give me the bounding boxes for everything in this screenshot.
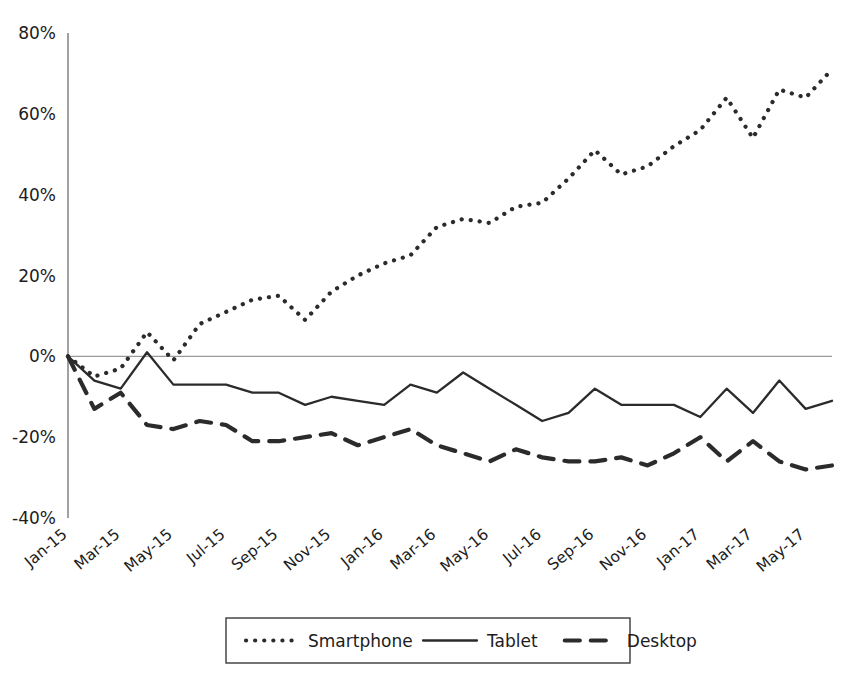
y-tick-label: 80%: [18, 23, 56, 43]
series-line-smartphone: [68, 69, 832, 376]
x-tick-label: May-17: [753, 525, 808, 575]
line-chart: 80%60%40%20%0%-20%-40% Jan-15Mar-15May-1…: [0, 0, 845, 689]
x-tick-label: Nov-15: [280, 525, 334, 574]
series-group: [68, 69, 832, 469]
x-axis-tick-labels: Jan-15Mar-15May-15Jul-15Sep-15Nov-15Jan-…: [21, 525, 809, 575]
y-tick-label: 60%: [18, 104, 56, 124]
x-tick-label: Sep-16: [544, 525, 597, 574]
series-line-tablet: [68, 352, 832, 421]
x-tick-label: May-15: [121, 525, 176, 575]
legend-label-desktop: Desktop: [627, 631, 697, 651]
x-tick-label: Jan-17: [653, 525, 703, 571]
x-tick-label: Jul-15: [183, 525, 229, 568]
chart-container: 80%60%40%20%0%-20%-40% Jan-15Mar-15May-1…: [0, 0, 845, 689]
legend: SmartphoneTabletDesktop: [226, 618, 697, 663]
x-tick-label: Mar-17: [703, 525, 756, 573]
y-axis-tick-labels: 80%60%40%20%0%-20%-40%: [12, 23, 56, 528]
y-tick-label: 20%: [18, 266, 56, 286]
legend-label-smartphone: Smartphone: [308, 631, 413, 651]
x-tick-label: Jul-16: [499, 525, 545, 568]
x-tick-label: Mar-16: [387, 525, 440, 573]
x-tick-label: Mar-15: [71, 525, 124, 573]
y-tick-label: 0%: [29, 346, 56, 366]
x-tick-label: Jan-15: [21, 525, 71, 571]
x-tick-label: Jan-16: [337, 525, 387, 571]
x-tick-label: Sep-15: [228, 525, 281, 574]
x-tick-label: May-16: [437, 525, 492, 575]
y-tick-label: -20%: [12, 427, 56, 447]
legend-label-tablet: Tablet: [486, 631, 538, 651]
y-tick-label: 40%: [18, 185, 56, 205]
x-tick-label: Nov-16: [596, 525, 650, 574]
y-tick-label: -40%: [12, 508, 56, 528]
series-line-desktop: [68, 356, 832, 469]
